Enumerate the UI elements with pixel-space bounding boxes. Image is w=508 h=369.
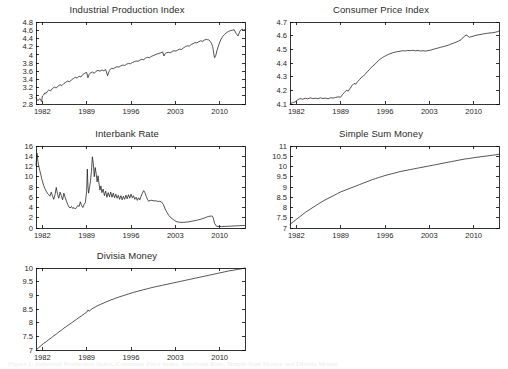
svg-text:8: 8 <box>283 203 287 212</box>
svg-text:1996: 1996 <box>123 231 140 240</box>
svg-text:2: 2 <box>29 213 33 222</box>
panel-industrial-production-index: Industrial Production Index 2.833.23.43.… <box>0 4 254 124</box>
svg-text:3.2: 3.2 <box>22 83 33 92</box>
svg-text:2003: 2003 <box>421 107 438 116</box>
svg-text:4.6: 4.6 <box>276 31 287 40</box>
svg-text:0: 0 <box>29 224 33 233</box>
svg-text:1996: 1996 <box>123 107 140 116</box>
panel-title-consumer-price-index: Consumer Price Index <box>254 4 508 15</box>
svg-text:4.5: 4.5 <box>276 45 287 54</box>
svg-text:7: 7 <box>29 346 33 355</box>
plot-simple-sum-money: 77.588.599.51010.51119821989199620032010 <box>254 140 508 246</box>
panel-title-simple-sum-money: Simple Sum Money <box>254 128 508 139</box>
plot-interbank-rate: 024681012141619821989199620032010 <box>0 140 254 246</box>
svg-text:1982: 1982 <box>34 107 51 116</box>
panel-title-interbank-rate: Interbank Rate <box>0 128 254 139</box>
svg-text:4.8: 4.8 <box>22 18 33 27</box>
svg-text:4.6: 4.6 <box>22 26 33 35</box>
svg-text:4.2: 4.2 <box>276 86 287 95</box>
svg-text:10: 10 <box>25 172 33 181</box>
svg-text:3.6: 3.6 <box>22 67 33 76</box>
svg-text:4.4: 4.4 <box>276 59 287 68</box>
svg-text:7.5: 7.5 <box>22 332 33 341</box>
panel-interbank-rate: Interbank Rate 0246810121416198219891996… <box>0 128 254 248</box>
svg-text:2003: 2003 <box>421 231 438 240</box>
panel-title-industrial-production-index: Industrial Production Index <box>0 4 254 15</box>
svg-text:14: 14 <box>25 152 33 161</box>
svg-text:4: 4 <box>29 51 33 60</box>
svg-text:2010: 2010 <box>211 231 228 240</box>
figure-panel-grid: Industrial Production Index 2.833.23.43.… <box>0 0 508 369</box>
plot-divisia-money: 77.588.599.51019821989199620032010 <box>0 262 254 368</box>
panel-title-divisia-money: Divisia Money <box>0 250 254 261</box>
svg-text:4.1: 4.1 <box>276 100 287 109</box>
svg-text:10.5: 10.5 <box>272 152 287 161</box>
svg-text:8: 8 <box>29 318 33 327</box>
svg-text:10: 10 <box>279 162 287 171</box>
svg-text:3: 3 <box>29 92 33 101</box>
svg-text:3.8: 3.8 <box>22 59 33 68</box>
svg-text:4.3: 4.3 <box>276 72 287 81</box>
svg-text:9.5: 9.5 <box>22 277 33 286</box>
svg-text:1982: 1982 <box>288 231 305 240</box>
svg-text:2010: 2010 <box>465 107 482 116</box>
svg-text:1989: 1989 <box>78 231 95 240</box>
svg-text:9.5: 9.5 <box>276 172 287 181</box>
panel-consumer-price-index: Consumer Price Index 4.14.24.34.44.54.64… <box>254 4 508 124</box>
svg-text:2003: 2003 <box>167 231 184 240</box>
svg-text:9: 9 <box>29 291 33 300</box>
svg-text:2.8: 2.8 <box>22 100 33 109</box>
figure-caption: Figure 1: Industrial Production Index, C… <box>8 360 504 368</box>
panel-divisia-money: Divisia Money 77.588.599.510198219891996… <box>0 250 254 369</box>
svg-text:1996: 1996 <box>377 231 394 240</box>
svg-text:2010: 2010 <box>211 107 228 116</box>
svg-text:16: 16 <box>25 142 33 151</box>
plot-industrial-production-index: 2.833.23.43.63.844.24.44.64.819821989199… <box>0 16 254 122</box>
svg-text:1996: 1996 <box>377 107 394 116</box>
svg-text:4: 4 <box>29 203 33 212</box>
svg-text:8.5: 8.5 <box>276 193 287 202</box>
plot-consumer-price-index: 4.14.24.34.44.54.64.71982198919962003201… <box>254 16 508 122</box>
svg-text:11: 11 <box>279 142 287 151</box>
svg-text:10: 10 <box>25 264 33 273</box>
svg-text:2010: 2010 <box>465 231 482 240</box>
svg-text:2003: 2003 <box>167 107 184 116</box>
svg-text:4.2: 4.2 <box>22 42 33 51</box>
svg-text:8: 8 <box>29 183 33 192</box>
svg-text:4.7: 4.7 <box>276 18 287 27</box>
panel-simple-sum-money: Simple Sum Money 77.588.599.51010.511198… <box>254 128 508 248</box>
svg-text:1989: 1989 <box>332 107 349 116</box>
svg-text:6: 6 <box>29 193 33 202</box>
svg-text:4.4: 4.4 <box>22 34 33 43</box>
svg-text:7: 7 <box>283 224 287 233</box>
svg-text:8.5: 8.5 <box>22 305 33 314</box>
svg-text:1989: 1989 <box>332 231 349 240</box>
svg-text:1989: 1989 <box>78 107 95 116</box>
svg-text:3.4: 3.4 <box>22 75 33 84</box>
svg-text:9: 9 <box>283 183 287 192</box>
svg-text:12: 12 <box>25 162 33 171</box>
svg-text:7.5: 7.5 <box>276 213 287 222</box>
svg-text:1982: 1982 <box>288 107 305 116</box>
svg-text:1982: 1982 <box>34 231 51 240</box>
